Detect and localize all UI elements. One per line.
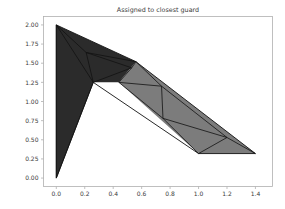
- x-tick-label: 0.6: [137, 190, 147, 197]
- y-tick-label: 1.00: [25, 98, 39, 105]
- dark-region: [56, 25, 136, 178]
- light-region: [119, 62, 256, 154]
- y-tick-label: 1.75: [25, 40, 39, 47]
- x-tick-label: 1.4: [251, 190, 261, 197]
- y-tick-label: 1.25: [25, 79, 39, 86]
- x-tick-label: 0.0: [52, 190, 62, 197]
- y-tick-label: 0.50: [25, 136, 39, 143]
- x-tick-label: 1.2: [222, 190, 232, 197]
- y-tick-label: 0.25: [25, 155, 39, 162]
- y-tick-label: 2.00: [25, 21, 39, 28]
- plot-canvas: 0.00.20.40.60.81.01.21.40.000.250.500.75…: [0, 0, 285, 209]
- matplotlib-figure: 0.00.20.40.60.81.01.21.40.000.250.500.75…: [0, 0, 285, 209]
- y-tick-label: 0.00: [25, 174, 39, 181]
- y-tick-label: 0.75: [25, 117, 39, 124]
- y-tick-label: 1.50: [25, 59, 39, 66]
- x-tick-label: 0.8: [165, 190, 175, 197]
- x-tick-label: 1.0: [194, 190, 204, 197]
- x-tick-label: 0.2: [80, 190, 90, 197]
- chart-title: Assigned to closest guard: [117, 6, 199, 14]
- x-tick-label: 0.4: [108, 190, 118, 197]
